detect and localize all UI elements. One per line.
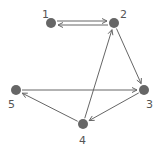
edges: [22, 19, 141, 122]
edge-4-to-5: [22, 93, 77, 121]
node-label-1: 1: [42, 8, 49, 21]
edge-2-to-3: [116, 28, 141, 83]
nodes: [11, 18, 149, 129]
node-3: [139, 85, 149, 95]
node-label-3: 3: [146, 98, 153, 111]
node-label-2: 2: [120, 8, 127, 21]
edge-3-to-4: [89, 93, 139, 121]
node-5: [11, 85, 21, 95]
node-label-4: 4: [79, 134, 86, 147]
directed-graph: 12345: [0, 0, 163, 153]
node-label-5: 5: [8, 98, 15, 111]
edge-4-to-2: [85, 30, 112, 119]
node-4: [78, 119, 88, 129]
node-2: [109, 18, 119, 28]
